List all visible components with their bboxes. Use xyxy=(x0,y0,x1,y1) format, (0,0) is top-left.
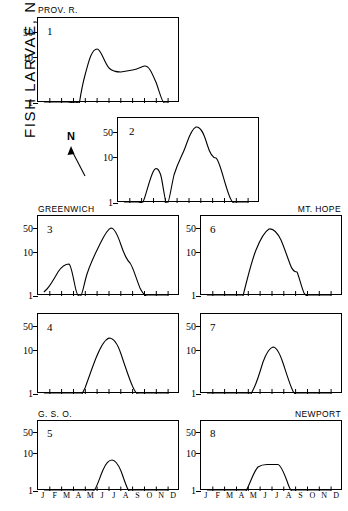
panel-3-curve xyxy=(38,216,180,296)
panel-3-ytick-10 xyxy=(33,252,38,253)
panel-5-ylabel-1: 1 xyxy=(28,485,33,496)
month-label: M xyxy=(247,491,259,500)
month-label: J xyxy=(37,491,49,500)
panel-1-ytick-50 xyxy=(33,32,38,33)
panel-7-ylabel-1: 1 xyxy=(191,388,196,399)
panel-5-plot-area: 50 10 1 xyxy=(37,420,179,490)
panel-5-curve xyxy=(38,421,180,491)
month-label: A xyxy=(235,491,247,500)
station-caption-prov-r: PROV. R. xyxy=(38,5,78,15)
panel-2-ytick-10 xyxy=(113,157,118,158)
panel-1-plot-area: 50 10 1 xyxy=(37,17,179,102)
panel-8-number: 8 xyxy=(210,427,216,439)
month-label: A xyxy=(120,491,132,500)
month-label: J xyxy=(200,491,212,500)
panel-4-number: 4 xyxy=(47,321,53,333)
panel-4-ylabel-50: 50 xyxy=(23,321,33,332)
panel-4: 50 10 1 4 xyxy=(37,313,179,393)
panel-4-ytick-50 xyxy=(33,326,38,327)
panel-7-ytick-10 xyxy=(196,350,201,351)
north-arrow-icon xyxy=(58,130,98,178)
panel-2-number: 2 xyxy=(129,125,135,137)
panel-3-ylabel-1: 1 xyxy=(28,290,33,301)
panel-6: MT. HOPE xyxy=(200,215,342,295)
month-label: N xyxy=(155,491,167,500)
panel-6-number: 6 xyxy=(210,223,216,235)
panel-3-plot-area: 50 10 1 xyxy=(37,215,179,295)
panel-5-ytick-50 xyxy=(33,432,38,433)
panel-8-ylabel-50: 50 xyxy=(186,427,196,438)
y-axis-title: FISH LARVAE, No. / m3 xyxy=(20,0,38,138)
fish-larvae-figure: FISH LARVAE, No. / m3 N PROV. R. xyxy=(0,0,348,511)
panel-3-ytick-50 xyxy=(33,228,38,229)
panel-5: G. S. O. xyxy=(37,420,179,490)
panel-6-ylabel-50: 50 xyxy=(186,223,196,234)
panel-7: 50 10 1 7 xyxy=(200,313,342,393)
panel-8-ytick-10 xyxy=(196,453,201,454)
panel-2-plot-area: 50 10 1 xyxy=(117,117,259,202)
station-caption-mt-hope: MT. HOPE xyxy=(298,204,341,214)
y-axis-title-text: FISH LARVAE, No. / m xyxy=(21,0,38,138)
month-label: J xyxy=(259,491,271,500)
month-label: A xyxy=(283,491,295,500)
panel-5-ytick-10 xyxy=(33,453,38,454)
panel-7-plot-area: 50 10 1 xyxy=(200,313,342,393)
month-label: D xyxy=(330,491,342,500)
north-arrow-compass: N xyxy=(58,130,98,178)
panel-6-ytick-50 xyxy=(196,228,201,229)
panel-1-ylabel-10: 10 xyxy=(23,52,33,63)
panel-6-ytick-10 xyxy=(196,252,201,253)
panel-1-number: 1 xyxy=(47,25,53,37)
panel-8-ylabel-10: 10 xyxy=(186,448,196,459)
panel-6-ylabel-10: 10 xyxy=(186,247,196,258)
panel-4-ytick-10 xyxy=(33,350,38,351)
panel-6-ytick-1 xyxy=(196,296,201,297)
panel-2-ytick-1 xyxy=(113,203,118,204)
panel-7-ytick-50 xyxy=(196,326,201,327)
month-label: F xyxy=(212,491,224,500)
month-label: J xyxy=(271,491,283,500)
panel-2-ylabel-1: 1 xyxy=(108,197,113,208)
panel-1-ytick-1 xyxy=(33,103,38,104)
panel-1-ylabel-1: 1 xyxy=(28,97,33,108)
month-label: M xyxy=(224,491,236,500)
panel-2-ylabel-50: 50 xyxy=(103,127,113,138)
panel-4-ytick-1 xyxy=(33,394,38,395)
month-label: S xyxy=(295,491,307,500)
panel-5-ylabel-10: 10 xyxy=(23,448,33,459)
panel-8-month-labels: J F M A M J J A S O N D xyxy=(200,491,342,500)
month-label: J xyxy=(108,491,120,500)
month-label: D xyxy=(167,491,179,500)
panel-4-ylabel-10: 10 xyxy=(23,345,33,356)
panel-7-number: 7 xyxy=(210,321,216,333)
panel-7-ylabel-10: 10 xyxy=(186,345,196,356)
station-caption-newport: NEWPORT xyxy=(295,409,341,419)
station-caption-gso: G. S. O. xyxy=(38,409,72,419)
panel-1: PROV. R. xyxy=(37,17,179,102)
panel-1-ytick-10 xyxy=(33,57,38,58)
panel-2-ytick-50 xyxy=(113,132,118,133)
panel-7-ytick-1 xyxy=(196,394,201,395)
panel-7-curve xyxy=(201,314,343,394)
month-label: J xyxy=(96,491,108,500)
panel-6-ylabel-1: 1 xyxy=(191,290,196,301)
month-label: S xyxy=(132,491,144,500)
panel-2-curve xyxy=(118,118,260,203)
panel-1-curve xyxy=(38,18,180,103)
panel-4-ylabel-1: 1 xyxy=(28,388,33,399)
panel-5-ylabel-50: 50 xyxy=(23,427,33,438)
panel-5-number: 5 xyxy=(47,427,53,439)
panel-7-ylabel-50: 50 xyxy=(186,321,196,332)
panel-2-ylabel-10: 10 xyxy=(103,152,113,163)
station-caption-greenwich: GREENWICH xyxy=(38,204,95,214)
panel-3-number: 3 xyxy=(47,223,53,235)
month-label: A xyxy=(72,491,84,500)
panel-1-ylabel-50: 50 xyxy=(23,27,33,38)
panel-5-month-labels: J F M A M J J A S O N D xyxy=(37,491,179,500)
month-label: F xyxy=(49,491,61,500)
panel-8-ytick-50 xyxy=(196,432,201,433)
compass-north-label: N xyxy=(67,130,75,142)
panel-2: 50 10 1 2 xyxy=(117,117,259,202)
panel-3-ylabel-50: 50 xyxy=(23,223,33,234)
panel-4-plot-area: 50 10 1 xyxy=(37,313,179,393)
